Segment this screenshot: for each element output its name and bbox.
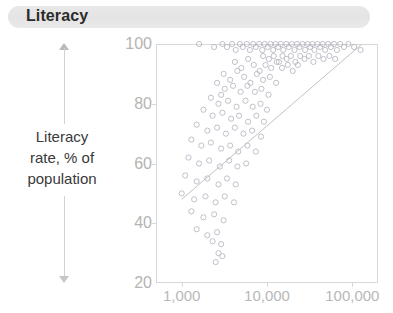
data-point (264, 107, 269, 112)
data-point (245, 83, 250, 88)
data-point (234, 104, 239, 109)
scatter-chart: 20406080100 1,00010,000100,000 (0, 0, 393, 313)
data-point (201, 215, 206, 220)
data-point (247, 47, 252, 52)
data-point (281, 47, 286, 52)
data-point (321, 56, 326, 61)
data-point (210, 239, 215, 244)
data-point (228, 143, 233, 148)
data-point (285, 62, 290, 67)
data-point (235, 164, 240, 169)
data-point (266, 56, 271, 61)
data-point (323, 47, 328, 52)
data-point (194, 179, 199, 184)
data-point (258, 101, 263, 106)
data-point (220, 110, 225, 115)
data-point (231, 200, 236, 205)
data-point (194, 122, 199, 127)
data-point (241, 131, 246, 136)
data-point (290, 68, 295, 73)
x-tick-label: 1,000 (163, 288, 201, 303)
data-point (327, 53, 332, 58)
data-point (245, 56, 250, 61)
data-point (288, 53, 293, 58)
data-point (221, 218, 226, 223)
data-point (236, 149, 241, 154)
data-point (183, 173, 188, 178)
data-point (222, 86, 227, 91)
data-point (213, 259, 218, 264)
data-point (213, 200, 218, 205)
data-point (224, 44, 229, 49)
data-point (274, 80, 279, 85)
data-point (214, 80, 219, 85)
data-point (253, 149, 258, 154)
data-point (259, 86, 264, 91)
data-point (303, 47, 308, 52)
data-point (244, 161, 249, 166)
data-point (226, 98, 231, 103)
data-point (237, 41, 242, 46)
data-point (331, 41, 336, 46)
data-point (248, 80, 253, 85)
data-point (312, 47, 317, 52)
data-point (300, 41, 305, 46)
y-tick-label: 40 (110, 215, 152, 231)
data-point (245, 119, 250, 124)
data-point (271, 47, 276, 52)
y-tick-label: 80 (110, 96, 152, 112)
data-point (192, 197, 197, 202)
data-point (220, 254, 225, 259)
data-point (207, 158, 212, 163)
data-point (261, 119, 266, 124)
data-point (252, 89, 257, 94)
data-point (267, 74, 272, 79)
data-point (242, 74, 247, 79)
y-tick-label: 100 (110, 36, 152, 52)
data-point (229, 116, 234, 121)
data-point (199, 143, 204, 148)
data-point (244, 41, 249, 46)
data-point (203, 194, 208, 199)
data-point (243, 98, 248, 103)
data-point (201, 107, 206, 112)
data-point (223, 131, 228, 136)
data-point (250, 104, 255, 109)
x-tick-label: 100,000 (325, 288, 379, 303)
data-point (316, 53, 321, 58)
data-point (236, 113, 241, 118)
data-point (251, 62, 256, 67)
data-point (289, 41, 294, 46)
data-point (235, 68, 240, 73)
data-point (258, 134, 263, 139)
data-point (210, 113, 215, 118)
data-point (233, 182, 238, 187)
data-point (186, 155, 191, 160)
data-point (214, 230, 219, 235)
data-point (214, 125, 219, 130)
data-point (311, 59, 316, 64)
data-point (179, 191, 184, 196)
data-point (208, 95, 213, 100)
x-axis-tick-labels: 1,00010,000100,000 (0, 288, 393, 308)
data-point (271, 53, 276, 58)
data-point (212, 44, 217, 49)
data-point (352, 44, 357, 49)
data-point (232, 59, 237, 64)
data-point (263, 62, 268, 67)
data-point (219, 92, 224, 97)
data-point (260, 47, 265, 52)
y-tick-label: 60 (110, 156, 152, 172)
x-tick-label: 10,000 (244, 288, 290, 303)
data-point (208, 140, 213, 145)
data-point (232, 125, 237, 130)
data-point (230, 41, 235, 46)
data-point (230, 83, 235, 88)
data-point (189, 137, 194, 142)
data-point (205, 233, 210, 238)
data-point (228, 77, 233, 82)
data-point (254, 113, 259, 118)
data-point (334, 47, 339, 52)
data-point (205, 128, 210, 133)
data-point (221, 71, 226, 76)
